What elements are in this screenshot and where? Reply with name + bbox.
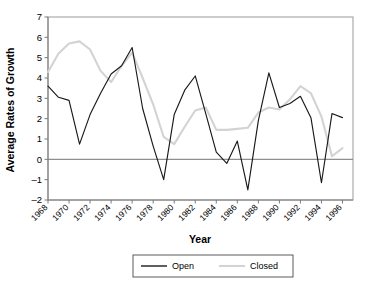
y-tick-label: 6 xyxy=(37,32,42,43)
growth-rate-line-chart: –2–101234567 196819701972197419761978198… xyxy=(0,0,381,287)
y-tick-label: 2 xyxy=(37,113,42,124)
y-tick-label: –1 xyxy=(31,174,42,185)
legend-label-open: Open xyxy=(172,261,194,271)
y-axis-title: Average Rates of Growth xyxy=(4,47,16,172)
y-tick-label: 4 xyxy=(37,72,42,83)
y-tick-label: 3 xyxy=(37,93,42,104)
y-tick-label: 1 xyxy=(37,133,42,144)
chart-figure: –2–101234567 196819701972197419761978198… xyxy=(0,0,381,287)
chart-legend: OpenClosed xyxy=(133,255,293,277)
y-tick-label: 5 xyxy=(37,52,42,63)
x-axis-title: Year xyxy=(189,233,211,245)
y-tick-label: 7 xyxy=(37,11,42,22)
legend-label-closed: Closed xyxy=(250,261,278,271)
y-tick-label: 0 xyxy=(37,154,42,165)
